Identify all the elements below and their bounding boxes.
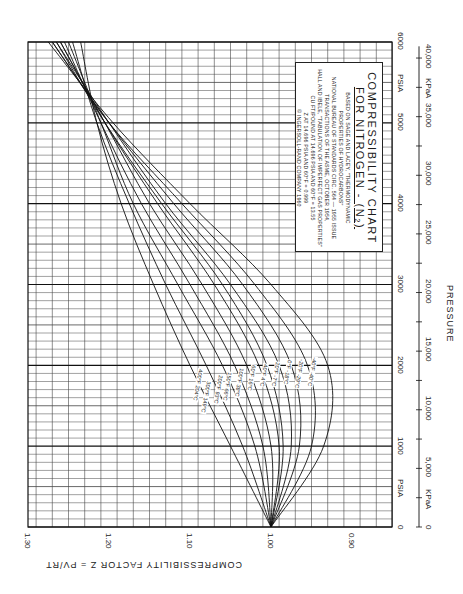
psia-tick-label: 1000 bbox=[396, 437, 405, 455]
kpa-tick-label: 25,000 bbox=[424, 220, 433, 244]
psia-tick-label: 6000 bbox=[396, 32, 405, 50]
chart-note-line: BASED ON SAGE AND LACEY, "THERMODYNAMIC bbox=[344, 63, 351, 253]
chart-note-line: CU FT/POUND AT 14.696 PSIA AND 60°F = 13… bbox=[309, 63, 316, 253]
kpa-tick-label: 35,000 bbox=[424, 103, 433, 127]
psia-unit-label: PSIA bbox=[396, 74, 405, 92]
z-tick-label: 1.30 bbox=[23, 533, 32, 549]
kpa-unit-label: KPaA bbox=[424, 489, 433, 509]
kpa-tick-label: 15,000 bbox=[424, 337, 433, 361]
z-axis-title: COMPRESSIBILITY FACTOR Z = PV/RT bbox=[45, 560, 242, 570]
kpa-tick-label: 40,000 bbox=[424, 44, 433, 68]
psia-tick-label: 3000 bbox=[396, 275, 405, 293]
chart-notes: BASED ON SAGE AND LACEY, "THERMODYNAMICP… bbox=[295, 63, 351, 253]
chart-note-line: © INGERSOLL-RAND COMPANY 1960 bbox=[295, 63, 302, 253]
kpa-tick-label: 30,000 bbox=[424, 161, 433, 185]
kpa-tick-label: 5,000 bbox=[424, 457, 433, 477]
chart-title-box: COMPRESSIBILITY CHART FOR NITROGEN - (N₂… bbox=[295, 62, 383, 252]
chart-note-line: PROPERTIES OF HYDROCARBONS" bbox=[337, 63, 344, 253]
kpa-tick-label: 0 bbox=[424, 525, 433, 529]
compressibility-chart bbox=[0, 0, 463, 594]
z-tick-label: 1.20 bbox=[104, 533, 113, 549]
psia-tick-label: 2000 bbox=[396, 356, 405, 374]
psia-unit-label: PSIA bbox=[396, 479, 405, 497]
kpa-tick-label: 10,000 bbox=[424, 396, 433, 420]
z-tick-label: 1.00 bbox=[266, 533, 275, 549]
psia-tick-label: 5000 bbox=[396, 113, 405, 131]
chart-title: COMPRESSIBILITY CHART bbox=[366, 63, 378, 253]
chart-note-line: TRANSACTIONS OF THE ASME, OCTOBER 1954, bbox=[323, 63, 330, 253]
chart-note-line: HALL AND IBELE, "TABULATION OF IMPERFECT… bbox=[316, 63, 323, 253]
chart-note-line: NATIONAL BUREAU OF STANDARDS CIRC. 564 —… bbox=[330, 63, 337, 253]
kpa-tick-label: 20,000 bbox=[424, 279, 433, 303]
chart-note-line: Z AT 14.696 PSIA AND 60°F = 0.999 bbox=[302, 63, 309, 253]
z-tick-label: 0.90 bbox=[347, 533, 356, 549]
chart-subtitle: FOR NITROGEN - (N₂) bbox=[354, 63, 366, 253]
z-tick-label: 1.10 bbox=[185, 533, 194, 549]
kpa-axis bbox=[416, 46, 422, 527]
psia-tick-label: 4000 bbox=[396, 194, 405, 212]
pressure-axis-title: PRESSURE bbox=[445, 285, 455, 343]
kpa-unit-label: KPaA bbox=[424, 78, 433, 98]
psia-tick-label: 0 bbox=[396, 525, 405, 529]
